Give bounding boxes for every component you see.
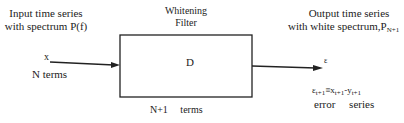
- input-title-line2: with spectrum P(f): [0, 20, 92, 32]
- filter-box-label: D: [175, 56, 205, 68]
- filter-title-line1: Whitening: [136, 5, 236, 17]
- filter-terms-label: N+1 terms: [150, 104, 203, 116]
- input-terms-label: N terms: [32, 68, 67, 80]
- input-title-line1: Input time series: [0, 7, 92, 19]
- output-signal-label: ε: [324, 55, 327, 67]
- input-arrow-line: [50, 62, 114, 65]
- output-title-line1: Output time series: [294, 7, 404, 19]
- output-arrow-line: [252, 66, 316, 68]
- filter-title-line2: Filter: [136, 17, 236, 29]
- input-arrowhead-icon: [111, 62, 120, 68]
- output-arrowhead-icon: [313, 65, 323, 71]
- error-series-label: error series: [314, 98, 374, 110]
- error-equation: εt+1≡xt+1-yt+1: [312, 84, 361, 99]
- output-title-line2: with white spectrum,PN+1: [288, 20, 399, 36]
- input-signal-label: x: [44, 51, 49, 63]
